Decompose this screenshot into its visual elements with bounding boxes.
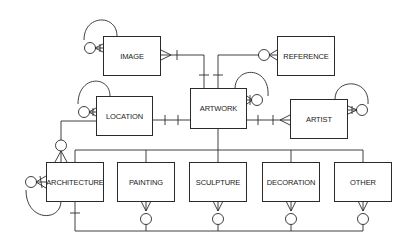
entity-label: SCULPTURE xyxy=(196,178,241,187)
crows-foot-icon xyxy=(36,176,46,188)
crows-foot-icon xyxy=(95,44,103,52)
entity-decoration[interactable]: DECORATION xyxy=(262,162,320,202)
entity-painting[interactable]: PAINTING xyxy=(117,162,175,202)
entity-sculpture[interactable]: SCULPTURE xyxy=(189,162,247,202)
crows-foot-icon xyxy=(358,201,368,211)
entity-image[interactable]: IMAGE xyxy=(103,36,161,76)
zero-optionality-icon xyxy=(141,214,152,225)
crows-foot-icon xyxy=(286,201,296,211)
entity-label: ARTWORK xyxy=(200,104,238,113)
entity-label: OTHER xyxy=(350,178,376,187)
zero-optionality-icon xyxy=(26,177,37,188)
crows-foot-icon xyxy=(213,201,223,211)
entity-reference[interactable]: REFERENCE xyxy=(277,36,335,76)
architecture-subtypes-relationship xyxy=(70,201,369,231)
crows-foot-icon xyxy=(55,151,67,162)
entity-location[interactable]: LOCATION xyxy=(96,96,153,136)
zero-optionality-icon xyxy=(213,214,224,225)
crows-foot-icon xyxy=(89,108,96,116)
entity-artwork[interactable]: ARTWORK xyxy=(190,88,247,129)
entity-label: PAINTING xyxy=(129,178,163,187)
zero-optionality-icon xyxy=(252,95,263,106)
entity-label: REFERENCE xyxy=(283,52,328,61)
zero-optionality-icon xyxy=(358,214,369,225)
reference-artwork-relationship xyxy=(213,50,277,89)
entity-architecture[interactable]: ARCHITECTURE xyxy=(46,162,104,202)
entity-label: LOCATION xyxy=(106,112,143,121)
location-artwork-relationship xyxy=(153,115,190,125)
zero-optionality-icon xyxy=(286,214,297,225)
zero-optionality-icon xyxy=(56,140,67,151)
entity-label: IMAGE xyxy=(120,52,144,61)
zero-optionality-icon xyxy=(259,50,270,61)
crows-foot-icon xyxy=(348,106,357,114)
crows-foot-icon xyxy=(247,95,252,105)
artwork-artist-relationship xyxy=(247,115,290,125)
entity-other[interactable]: OTHER xyxy=(334,162,392,202)
crows-foot-icon xyxy=(269,50,277,60)
zero-optionality-icon xyxy=(85,43,96,54)
entity-label: ARTIST xyxy=(306,115,332,124)
entity-label: DECORATION xyxy=(267,178,315,187)
entity-label: ARCHITECTURE xyxy=(46,178,104,187)
crows-foot-icon xyxy=(141,201,151,211)
zero-optionality-icon xyxy=(357,105,368,116)
image-artwork-relationship xyxy=(161,50,209,88)
entity-artist[interactable]: ARTIST xyxy=(290,99,348,139)
zero-optionality-icon xyxy=(79,107,90,118)
location-architecture-relationship xyxy=(55,121,96,162)
